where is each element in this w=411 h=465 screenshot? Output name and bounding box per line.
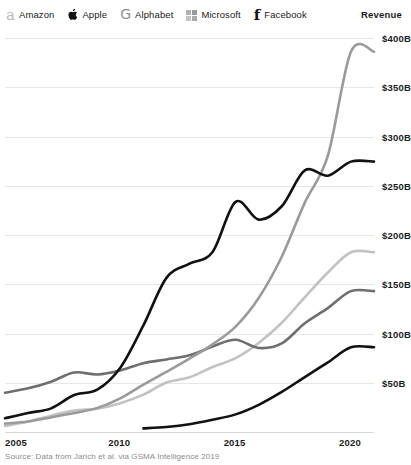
legend-label-apple: Apple (82, 9, 107, 20)
legend-item-amazon[interactable]: a Amazon (6, 7, 54, 22)
chart-y-axis-labels: $50B$100B$150B$200B$250B$300B$350B$400B (382, 33, 411, 389)
apple-logo-icon (67, 8, 78, 21)
y-axis-tick-label: $350B (382, 82, 411, 93)
legend-item-alphabet[interactable]: G Alphabet (120, 7, 173, 21)
series-line-apple (5, 161, 374, 419)
chart-legend: a Amazon Apple G Alphabet Microsoft f Fa… (0, 0, 411, 28)
y-axis-tick-label: $400B (382, 33, 411, 44)
y-axis-tick-label: $300B (382, 132, 411, 143)
legend-label-facebook: Facebook (264, 9, 307, 20)
facebook-logo-icon: f (254, 8, 260, 23)
chart-series-layer (5, 44, 374, 428)
legend-item-microsoft[interactable]: Microsoft (186, 9, 240, 20)
x-axis-tick-label: 2015 (224, 437, 246, 448)
chart-x-axis: 2005201020152020 (0, 437, 411, 451)
chart-svg: $50B$100B$150B$200B$250B$300B$350B$400B (0, 28, 411, 436)
legend-label-amazon: Amazon (19, 9, 54, 20)
series-line-alphabet (5, 251, 374, 426)
chart-screenshot: a Amazon Apple G Alphabet Microsoft f Fa… (0, 0, 411, 465)
y-axis-tick-label: $100B (382, 329, 411, 340)
series-line-amazon (5, 44, 374, 424)
x-axis-tick-label: 2005 (5, 437, 27, 448)
chart-plot-area: $50B$100B$150B$200B$250B$300B$350B$400B (0, 28, 411, 436)
revenue-axis-title: Revenue (361, 9, 402, 20)
chart-gridlines (5, 39, 374, 384)
alphabet-logo-icon: G (120, 7, 131, 21)
chart-source-note: Source: Data from Jarich et al. via GSMA… (5, 452, 219, 461)
y-axis-tick-label: $150B (382, 279, 411, 290)
legend-item-apple[interactable]: Apple (67, 8, 107, 21)
legend-item-facebook[interactable]: f Facebook (254, 7, 307, 22)
y-axis-tick-label: $50B (382, 378, 406, 389)
legend-label-microsoft: Microsoft (201, 9, 240, 20)
x-axis-tick-label: 2020 (339, 437, 361, 448)
amazon-logo-icon: a (6, 8, 15, 23)
y-axis-tick-label: $250B (382, 181, 411, 192)
legend-label-alphabet: Alphabet (135, 9, 173, 20)
microsoft-logo-icon (186, 10, 197, 21)
x-axis-tick-label: 2010 (108, 437, 130, 448)
y-axis-tick-label: $200B (382, 230, 411, 241)
